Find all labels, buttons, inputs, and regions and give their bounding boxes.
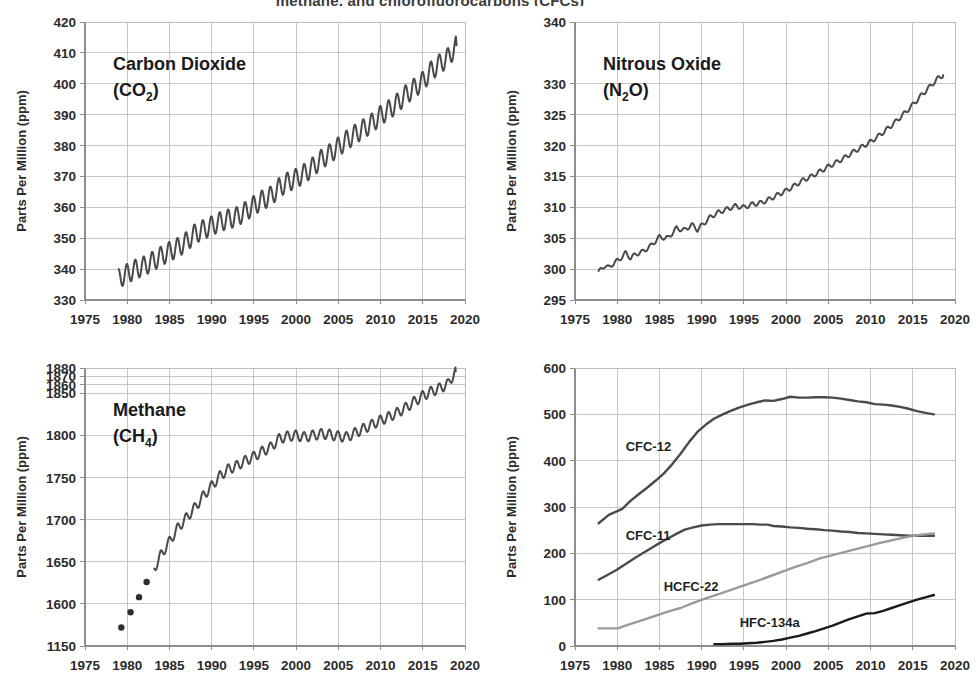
series-line-n2o bbox=[599, 75, 944, 271]
y-tick-label: 315 bbox=[543, 169, 566, 184]
tick-labels: 2953003053103153203253303401975198019851… bbox=[504, 15, 970, 327]
x-tick-label: 1975 bbox=[70, 312, 101, 327]
y-tick-label: 305 bbox=[543, 231, 566, 246]
tick-labels: 3303403503603703803904004104201975198019… bbox=[14, 15, 480, 327]
greenhouse-gas-figure: methane, and chlorofluorocarbons (CFCs) … bbox=[0, 0, 980, 692]
y-tick-label: 360 bbox=[53, 200, 76, 215]
y-tick-label: 500 bbox=[543, 407, 566, 422]
y-tick-label: 1150 bbox=[47, 639, 76, 654]
halocarbons-chart: CFC-12CFC-11HCFC-22HFC-134a0100200300400… bbox=[490, 346, 980, 692]
species-formula: (CH4) bbox=[113, 426, 158, 450]
x-tick-label: 2015 bbox=[898, 312, 929, 327]
y-tick-label: 1650 bbox=[46, 555, 76, 570]
nitrous-oxide-chart: 2953003053103153203253303401975198019851… bbox=[490, 0, 980, 346]
x-tick-label: 2020 bbox=[940, 658, 970, 673]
marker-series-ch4-early-samples bbox=[118, 579, 150, 631]
y-tick-label: 340 bbox=[53, 262, 76, 277]
y-tick-label: 1800 bbox=[46, 428, 76, 443]
y-tick-label: 380 bbox=[53, 139, 76, 154]
y-tick-label: 350 bbox=[53, 231, 76, 246]
data-point-marker bbox=[127, 609, 133, 615]
x-tick-label: 2010 bbox=[366, 312, 396, 327]
panel-caption: Carbon Dioxide(CO2) bbox=[113, 54, 246, 104]
x-tick-label: 2000 bbox=[281, 312, 311, 327]
x-tick-label: 1975 bbox=[560, 658, 591, 673]
panel-caption: Nitrous Oxide(N2O) bbox=[603, 54, 721, 104]
y-tick-label: 1750 bbox=[46, 471, 76, 486]
chart-panel-nitrous-oxide: 2953003053103153203253303401975198019851… bbox=[490, 0, 980, 346]
gridlines bbox=[575, 368, 955, 646]
y-tick-label: 410 bbox=[53, 46, 76, 61]
species-formula: (CO2) bbox=[113, 80, 159, 104]
x-tick-label: 2005 bbox=[813, 312, 844, 327]
x-tick-label: 2010 bbox=[856, 312, 886, 327]
data-point-marker bbox=[118, 624, 124, 630]
species-name: Nitrous Oxide bbox=[603, 54, 721, 74]
data-series-group: CFC-12CFC-11HCFC-22HFC-134a bbox=[599, 397, 934, 644]
series-label-cfc-11: CFC-11 bbox=[626, 528, 671, 543]
x-tick-label: 2020 bbox=[450, 658, 480, 673]
y-tick-label: 340 bbox=[543, 15, 566, 30]
x-tick-label: 1980 bbox=[112, 658, 142, 673]
y-tick-label: 600 bbox=[543, 361, 566, 376]
x-tick-label: 1985 bbox=[644, 312, 675, 327]
y-tick-label: 1700 bbox=[46, 513, 76, 528]
x-tick-label: 1990 bbox=[687, 312, 717, 327]
y-tick-label: 1880 bbox=[46, 361, 76, 376]
y-tick-label: 200 bbox=[543, 546, 566, 561]
y-axis-title: Parts Per Million (ppm) bbox=[14, 436, 29, 578]
x-tick-label: 1995 bbox=[239, 658, 270, 673]
x-tick-label: 1995 bbox=[729, 312, 760, 327]
y-axis-title: Parts Per Million (ppm) bbox=[504, 436, 519, 578]
y-tick-label: 390 bbox=[53, 108, 76, 123]
data-point-marker bbox=[143, 579, 149, 585]
series-label-hfc-134a: HFC-134a bbox=[740, 615, 801, 630]
panel-caption: Methane(CH4) bbox=[113, 400, 186, 450]
y-tick-label: 330 bbox=[53, 293, 76, 308]
y-tick-label: 370 bbox=[53, 169, 76, 184]
x-tick-label: 1985 bbox=[154, 658, 185, 673]
y-tick-label: 400 bbox=[543, 454, 566, 469]
y-tick-label: 320 bbox=[543, 139, 566, 154]
y-tick-label: 100 bbox=[543, 593, 566, 608]
x-tick-label: 1995 bbox=[239, 312, 270, 327]
x-tick-label: 2010 bbox=[366, 658, 396, 673]
x-tick-label: 2020 bbox=[450, 312, 480, 327]
x-tick-label: 1980 bbox=[112, 312, 142, 327]
x-tick-label: 1980 bbox=[602, 658, 632, 673]
species-name: Methane bbox=[113, 400, 186, 420]
x-tick-label: 2020 bbox=[940, 312, 970, 327]
x-tick-label: 1980 bbox=[602, 312, 632, 327]
y-tick-label: 310 bbox=[543, 200, 566, 215]
x-tick-label: 1990 bbox=[687, 658, 717, 673]
x-tick-label: 1995 bbox=[729, 658, 760, 673]
chart-panel-halocarbons: CFC-12CFC-11HCFC-22HFC-134a0100200300400… bbox=[490, 346, 980, 692]
x-tick-label: 1990 bbox=[197, 312, 227, 327]
x-tick-label: 2005 bbox=[813, 658, 844, 673]
x-tick-label: 1985 bbox=[644, 658, 675, 673]
x-tick-label: 2015 bbox=[898, 658, 929, 673]
x-tick-label: 1985 bbox=[154, 312, 185, 327]
data-series-group bbox=[599, 75, 944, 271]
methane-chart: 1150160016501700175018001850186018701880… bbox=[0, 346, 490, 692]
x-tick-label: 2005 bbox=[323, 312, 354, 327]
series-label-hcfc-22: HCFC-22 bbox=[664, 579, 719, 594]
x-tick-label: 2000 bbox=[771, 312, 801, 327]
x-tick-label: 1975 bbox=[560, 312, 591, 327]
series-line-cfc-12 bbox=[599, 397, 934, 523]
y-tick-label: 400 bbox=[53, 77, 76, 92]
y-tick-label: 295 bbox=[543, 293, 566, 308]
chart-panel-carbon-dioxide: 3303403503603703803904004104201975198019… bbox=[0, 0, 490, 346]
carbon-dioxide-chart: 3303403503603703803904004104201975198019… bbox=[0, 0, 490, 346]
x-tick-label: 2005 bbox=[323, 658, 354, 673]
y-tick-label: 300 bbox=[543, 500, 566, 515]
species-name: Carbon Dioxide bbox=[113, 54, 246, 74]
x-tick-label: 2000 bbox=[771, 658, 801, 673]
y-tick-label: 300 bbox=[543, 262, 566, 277]
data-point-marker bbox=[136, 594, 142, 600]
y-tick-label: 0 bbox=[558, 639, 566, 654]
x-tick-label: 2015 bbox=[408, 312, 439, 327]
y-axis-title: Parts Per Million (ppm) bbox=[504, 90, 519, 232]
x-tick-label: 2015 bbox=[408, 658, 439, 673]
y-tick-label: 420 bbox=[53, 15, 76, 30]
